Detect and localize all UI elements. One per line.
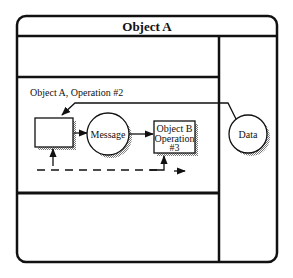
diagram-title: Object A <box>122 19 172 34</box>
object-b-label-line3: #3 <box>170 142 180 153</box>
process-box[interactable] <box>35 118 73 147</box>
object-a-diagram: Object A Object A, Operation #2 Message … <box>0 0 293 278</box>
message-label: Message <box>91 129 127 140</box>
operation-label: Object A, Operation #2 <box>30 87 123 98</box>
data-label: Data <box>239 129 258 140</box>
